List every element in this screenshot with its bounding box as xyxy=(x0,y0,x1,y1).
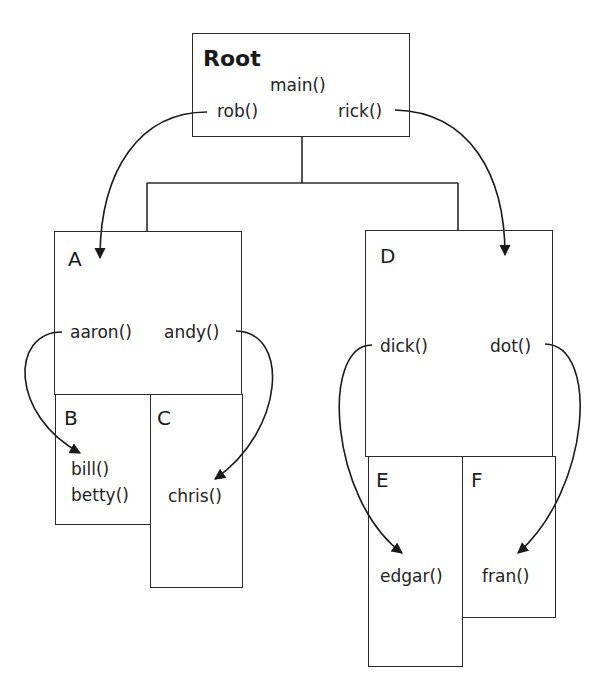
fn-rob: rob() xyxy=(217,101,258,121)
fn-betty: betty() xyxy=(71,485,129,505)
fn-aaron: aaron() xyxy=(70,322,132,342)
tree-connectors xyxy=(147,136,458,232)
fn-fran: fran() xyxy=(482,566,529,586)
D-label: D xyxy=(380,244,395,268)
E-label: E xyxy=(376,468,389,492)
A-box xyxy=(54,231,242,395)
B-label: B xyxy=(64,406,78,430)
fn-andy: andy() xyxy=(164,322,219,342)
A-label: A xyxy=(68,247,82,271)
fn-main: main() xyxy=(270,75,326,95)
fn-rick: rick() xyxy=(338,101,382,121)
fn-chris: chris() xyxy=(168,486,222,506)
C-label: C xyxy=(157,406,171,430)
F-label: F xyxy=(471,468,483,492)
fn-dot: dot() xyxy=(490,336,531,356)
fn-edgar: edgar() xyxy=(380,566,443,586)
root-label: Root xyxy=(203,46,261,71)
fn-bill: bill() xyxy=(71,459,109,479)
fn-dick: dick() xyxy=(380,336,428,356)
